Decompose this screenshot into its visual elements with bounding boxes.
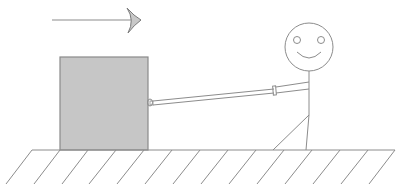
stick-figure (273, 23, 333, 150)
hatch (89, 150, 116, 184)
right-leg (306, 115, 309, 150)
left-eye-icon (294, 37, 301, 44)
direction-arrow (52, 8, 141, 33)
box (60, 57, 148, 150)
hatch (6, 150, 32, 184)
hatch (313, 150, 340, 184)
hatch (229, 150, 256, 184)
smile-icon (297, 52, 321, 58)
hatch (201, 150, 228, 184)
hatch (62, 150, 88, 184)
head (285, 23, 333, 71)
hatch (145, 150, 172, 184)
ground (6, 150, 395, 184)
arm-upper (276, 82, 309, 87)
rope-handle (273, 86, 277, 95)
hatch (369, 150, 395, 184)
hatch (34, 150, 60, 184)
hatch (117, 150, 144, 184)
left-leg (273, 115, 309, 150)
hatch (173, 150, 200, 184)
arm-lower (276, 89, 309, 93)
hatch (285, 150, 312, 184)
rope (148, 86, 277, 106)
hatch (341, 150, 368, 184)
pulling-diagram (0, 0, 400, 193)
hatch (257, 150, 284, 184)
right-eye-icon (318, 37, 325, 44)
